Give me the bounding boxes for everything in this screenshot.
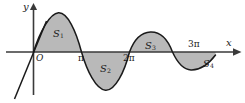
region-label-S4-index: 4 [210, 62, 214, 69]
tick-label-pi: π [78, 54, 84, 63]
region-label-S4-letter: S [203, 58, 210, 69]
origin-label: O [36, 54, 43, 63]
region-label-S3-index: 3 [152, 44, 156, 51]
region-label-S3-letter: S [145, 40, 152, 51]
region-label-S1: S1 [53, 29, 64, 39]
region-label-S2-index: 2 [107, 67, 111, 74]
region-label-S3: S3 [145, 41, 156, 51]
region-label-S1-index: 1 [60, 32, 64, 39]
x-axis-label: x [226, 38, 232, 48]
math-figure-damped-sine: y x O π 2π 3π S1 S2 S3 S4 [0, 0, 245, 103]
region-label-S2: S2 [100, 64, 111, 74]
region-label-S4: S4 [203, 59, 214, 69]
region-label-S2-letter: S [100, 63, 107, 74]
tick-label-two-pi: 2π [123, 54, 135, 63]
region-label-S1-letter: S [53, 28, 60, 39]
tick-label-three-pi: 3π [188, 40, 200, 49]
figure-canvas [0, 0, 245, 103]
y-axis-label: y [23, 2, 29, 12]
